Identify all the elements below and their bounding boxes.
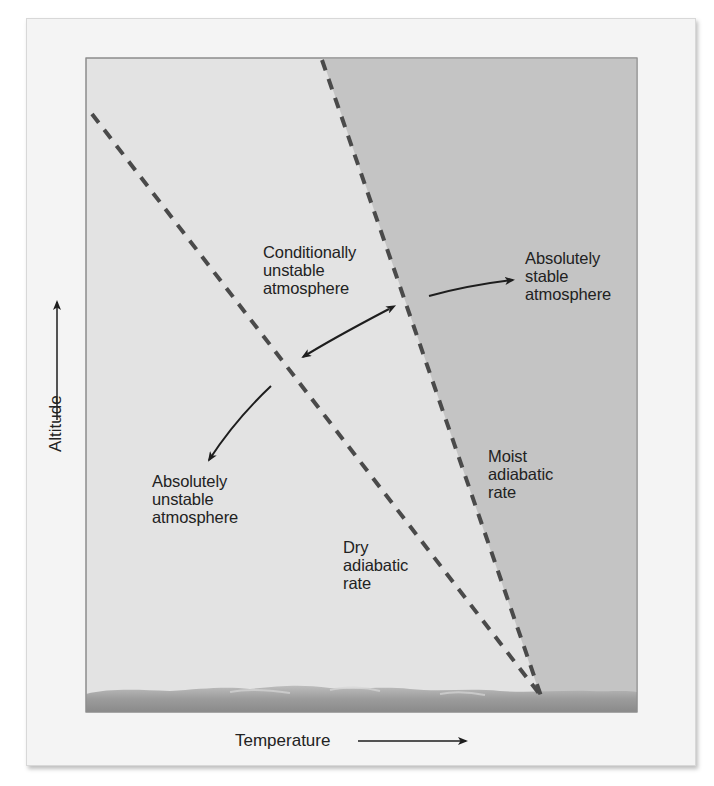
altitude-axis-label: Altitude bbox=[47, 395, 65, 452]
stability-diagram bbox=[0, 0, 714, 786]
conditionally-unstable-label: Conditionally unstable atmosphere bbox=[263, 243, 356, 297]
absolutely-stable-label: Absolutely stable atmosphere bbox=[525, 249, 611, 303]
dry-adiabatic-label: Dry adiabatic rate bbox=[343, 538, 408, 592]
moist-adiabatic-label: Moist adiabatic rate bbox=[488, 447, 553, 501]
absolutely-unstable-label: Absolutely unstable atmosphere bbox=[152, 472, 238, 526]
temperature-axis-label: Temperature bbox=[235, 732, 330, 750]
